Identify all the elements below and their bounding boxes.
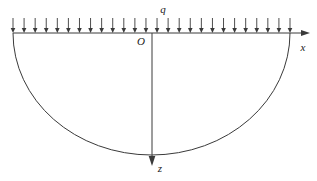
load-arrow-head [199,28,204,33]
load-arrow-head [266,28,271,33]
load-arrow-head [66,28,71,33]
load-arrow-head [77,28,82,33]
load-arrow-head [110,28,115,33]
load-arrow-head [210,28,215,33]
load-arrow-head [133,28,138,33]
load-arrow-head [232,28,237,33]
load-arrow-head [221,28,226,33]
x-axis-arrowhead [301,30,310,36]
origin-label: O [137,35,145,47]
z-axis-arrowhead [149,156,156,166]
load-arrow-head [166,28,171,33]
load-arrow-head [177,28,182,33]
load-halfspace-diagram: q O x z [0,0,317,181]
load-arrow-head [122,28,127,33]
load-magnitude-label: q [160,3,166,15]
load-arrow-head [277,28,282,33]
load-arrow-head [288,28,293,33]
z-axis-label: z [157,162,163,174]
load-arrow-head [188,28,193,33]
distributed-load-arrows [11,18,293,33]
load-arrow-head [99,28,104,33]
load-arrow-head [22,28,27,33]
diagram-canvas: q O x z [0,0,317,181]
load-arrow-head [88,28,93,33]
load-arrow-head [55,28,60,33]
load-arrow-head [144,28,149,33]
load-arrow-head [243,28,248,33]
load-arrow-head [155,28,160,33]
load-arrow-head [44,28,49,33]
load-arrow-head [254,28,259,33]
z-axis [149,33,156,166]
load-arrow-head [11,28,16,33]
load-arrow-head [33,28,38,33]
x-axis-label: x [300,41,306,53]
